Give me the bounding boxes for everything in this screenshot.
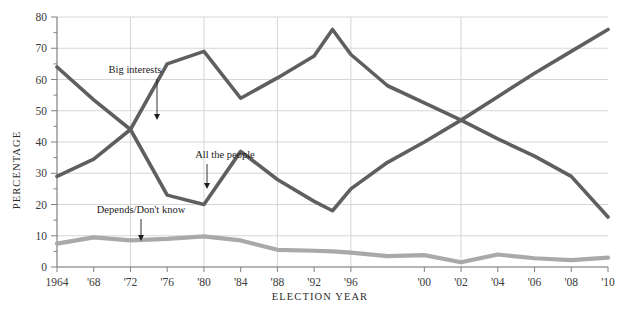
annotation-arrow-head — [204, 183, 210, 189]
y-tick-label: 10 — [36, 230, 48, 242]
y-tick-label: 70 — [36, 42, 48, 54]
y-tick-label: 0 — [41, 261, 47, 273]
series-annotations: Big interestsAll the peopleDepends/Don't… — [97, 64, 255, 241]
x-tick-label: '06 — [528, 276, 542, 288]
x-tick-label: 1964 — [46, 276, 69, 288]
x-tick-label: '88 — [271, 276, 285, 288]
annotation-label: All the people — [195, 149, 255, 160]
x-axis-title: ELECTION YEAR — [272, 291, 368, 302]
x-tick-label: '02 — [454, 276, 468, 288]
x-tick-label: '68 — [87, 276, 101, 288]
series-line — [57, 30, 608, 211]
y-tick-label: 30 — [36, 167, 48, 179]
y-tick-label: 20 — [36, 199, 48, 211]
x-axis-ticks: 1964'68'72'76'80'84'88'92'96'00'02'04'06… — [46, 267, 616, 288]
series-line — [57, 236, 608, 262]
series-line — [57, 30, 608, 218]
line-chart: 01020304050607080 1964'68'72'76'80'84'88… — [0, 0, 618, 317]
y-axis-ticks: 01020304050607080 — [36, 11, 58, 273]
x-tick-label: '96 — [344, 276, 358, 288]
gridlines — [57, 17, 608, 267]
x-tick-label: '04 — [491, 276, 505, 288]
x-tick-label: '72 — [124, 276, 138, 288]
y-tick-label: 80 — [36, 11, 48, 23]
x-tick-label: '08 — [564, 276, 578, 288]
x-tick-label: '84 — [234, 276, 248, 288]
y-tick-label: 50 — [36, 105, 48, 117]
y-tick-label: 60 — [36, 74, 48, 86]
chart-container: 01020304050607080 1964'68'72'76'80'84'88… — [0, 0, 618, 317]
y-tick-label: 40 — [36, 136, 48, 148]
x-tick-label: '92 — [307, 276, 321, 288]
annotation-arrow-head — [154, 114, 160, 120]
annotation-label: Depends/Don't know — [97, 204, 186, 215]
x-tick-label: '10 — [601, 276, 615, 288]
y-axis-title: PERCENTAGE — [11, 131, 22, 209]
x-tick-label: '76 — [160, 276, 174, 288]
annotation-label: Big interests — [109, 64, 162, 75]
x-tick-label: '80 — [197, 276, 211, 288]
x-tick-label: '00 — [418, 276, 432, 288]
